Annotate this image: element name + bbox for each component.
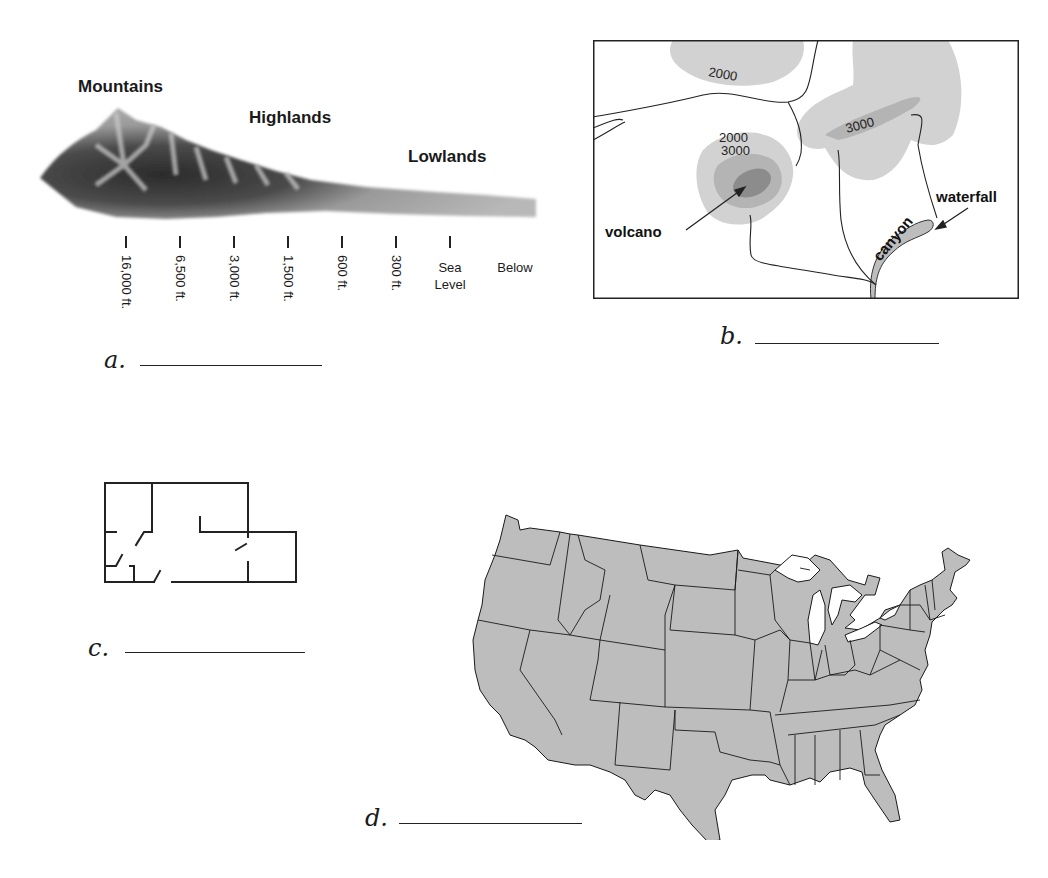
tick-16000 xyxy=(125,236,127,248)
topo-map-illustration: 2000 2000 3000 3000 volcano waterfall ca… xyxy=(593,40,1019,299)
elevation-label: 1,500 ft. xyxy=(281,255,296,302)
answer-line-d[interactable] xyxy=(399,823,582,824)
sea-level-label: Sea Level xyxy=(430,259,470,293)
contour-label-volcano-lower: 3000 xyxy=(721,143,750,158)
figure-a-letter: a. xyxy=(104,346,126,374)
elevation-label: 3,000 ft. xyxy=(227,255,242,302)
tick-sea-level xyxy=(449,236,451,248)
mountain-profile-illustration xyxy=(36,105,540,225)
label-mountains: Mountains xyxy=(78,77,163,97)
tick-3000 xyxy=(233,236,235,248)
us-states-map-illustration xyxy=(470,510,980,840)
answer-line-c[interactable] xyxy=(125,652,305,653)
elevation-label: 600 ft. xyxy=(335,255,350,291)
elevation-label: 300 ft. xyxy=(389,255,404,291)
answer-line-a[interactable] xyxy=(140,365,322,366)
tick-6500 xyxy=(179,236,181,248)
figure-b-letter: b. xyxy=(720,322,743,350)
tick-300 xyxy=(395,236,397,248)
label-volcano: volcano xyxy=(605,223,662,240)
answer-line-b[interactable] xyxy=(755,343,939,344)
elevation-label: 16,000 ft. xyxy=(119,255,134,309)
tick-600 xyxy=(341,236,343,248)
figure-c-letter: c. xyxy=(88,634,109,662)
tick-1500 xyxy=(287,236,289,248)
floor-plan-illustration xyxy=(100,478,300,586)
figure-d-letter: d. xyxy=(365,804,388,832)
label-waterfall: waterfall xyxy=(935,188,997,205)
elevation-label: 6,500 ft. xyxy=(173,255,188,302)
below-sea-level-label: Below xyxy=(490,259,540,276)
